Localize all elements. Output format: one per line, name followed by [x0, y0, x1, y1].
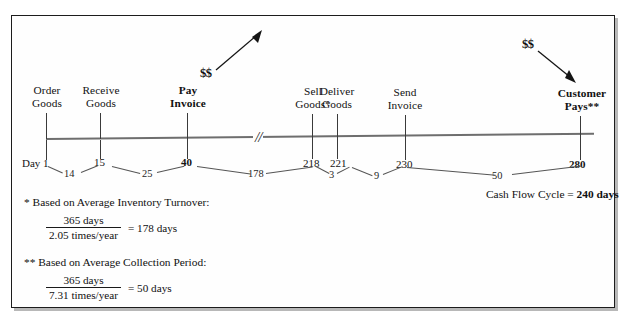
chevron-stroke-1b: [81, 165, 98, 173]
event-label-send-invoice: Send Invoice: [374, 86, 436, 112]
footnote-2-denominator: 7.31 times/year: [46, 288, 121, 301]
tick-stem-send-invoice: [405, 115, 406, 141]
footnote-1-denominator: 2.05 times/year: [46, 228, 121, 241]
tick-stem-pay-invoice: [187, 113, 188, 139]
chevron-stroke-5b: [383, 166, 403, 175]
footnote-2-fraction: 365 days 7.31 times/year = 50 days: [46, 274, 172, 301]
tick-stem-order-goods: [46, 113, 47, 139]
arrow-inflow-icon: [536, 49, 586, 91]
interval-label-25: 25: [142, 168, 152, 179]
chevron-stroke-4a: [316, 166, 330, 174]
cash-flow-cycle-summary: Cash Flow Cycle = 240 days: [486, 188, 619, 200]
timeline-axis: [46, 133, 594, 140]
chevron-stroke-6b: [512, 165, 582, 175]
dollar-inflow-label: $$: [522, 37, 534, 52]
event-label-receive-goods: Receive Goods: [70, 84, 132, 110]
chevron-stroke-6a: [407, 167, 496, 176]
footnote-2-frac-stack: 365 days 7.31 times/year: [46, 274, 121, 301]
axis-break-symbol: //: [253, 129, 263, 146]
interval-label-14: 14: [64, 168, 74, 179]
footnote-1-fraction: 365 days 2.05 times/year = 178 days: [46, 214, 177, 241]
day-number-deliver-goods: 221: [330, 157, 347, 169]
cash-flow-cycle-value: 240 days: [577, 188, 619, 200]
tick-stem-sell-goods: [312, 114, 313, 140]
footnote-2-numerator: 365 days: [57, 274, 109, 287]
chevron-stroke-3a: [197, 166, 251, 175]
cash-flow-cycle-prefix: Cash Flow Cycle =: [486, 188, 577, 200]
footnote-1-numerator: 365 days: [57, 214, 109, 227]
interval-label-9: 9: [374, 170, 379, 181]
footnote-2-result: = 50 days: [128, 282, 172, 294]
chevron-stroke-2a: [112, 166, 140, 174]
chevron-stroke-1a: [48, 166, 63, 173]
day-number-customer-pays: 280: [569, 158, 586, 170]
interval-label-50: 50: [492, 170, 502, 181]
chevron-stroke-5a: [352, 167, 373, 176]
figure-canvas: // Order Goods Receive Goods Pay Invoice…: [0, 0, 626, 322]
event-label-pay-invoice: Pay Invoice: [156, 84, 220, 110]
interval-label-178: 178: [248, 168, 264, 179]
interval-label-3: 3: [329, 169, 334, 180]
footnote-1-text: * Based on Average Inventory Turnover:: [24, 196, 210, 208]
chevron-stroke-3b: [266, 166, 313, 174]
footnote-2-text: ** Based on Average Collection Period:: [24, 256, 206, 268]
figure-border: // Order Goods Receive Goods Pay Invoice…: [11, 15, 615, 308]
arrow-outflow-icon: [210, 28, 270, 74]
footnote-1-frac-stack: 365 days 2.05 times/year: [46, 214, 121, 241]
day-number-order-goods: Day 1: [22, 157, 49, 169]
tick-stem-receive-goods: [100, 113, 101, 139]
footnote-1-result: = 178 days: [128, 222, 177, 234]
tick-stem-deliver-goods: [337, 114, 338, 140]
event-label-order-goods: Order Goods: [17, 84, 77, 110]
event-label-deliver-goods: Deliver Goods: [305, 85, 369, 111]
tick-stem-customer-pays: [580, 116, 581, 144]
chevron-stroke-2b: [157, 166, 185, 173]
